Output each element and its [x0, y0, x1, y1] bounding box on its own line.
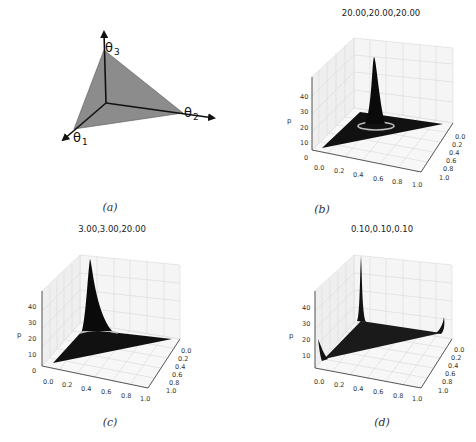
svg-text:0.4: 0.4 — [448, 362, 458, 370]
svg-text:30: 30 — [300, 108, 308, 116]
svg-text:20: 20 — [300, 124, 308, 132]
grid-panes — [312, 38, 453, 172]
svg-text:0.0: 0.0 — [181, 347, 191, 355]
svg-text:2: 2 — [193, 112, 199, 122]
svg-text:40: 40 — [28, 303, 36, 311]
svg-text:0: 0 — [304, 154, 308, 162]
svg-text:0.8: 0.8 — [393, 392, 403, 400]
svg-text:10: 10 — [302, 352, 310, 360]
svg-text:1: 1 — [82, 137, 88, 147]
svg-text:0.2: 0.2 — [451, 354, 461, 362]
svg-text:1.0: 1.0 — [140, 395, 150, 403]
svg-text:1.0: 1.0 — [438, 387, 448, 395]
svg-text:30: 30 — [302, 320, 310, 328]
svg-text:0.0: 0.0 — [454, 346, 464, 354]
svg-text:0.6: 0.6 — [373, 175, 383, 183]
y-ticks: 0.00.20.4 0.60.81.0 — [439, 133, 465, 182]
svg-text:1.0: 1.0 — [166, 387, 176, 395]
caption-b: (b) — [314, 203, 330, 216]
svg-text:0.4: 0.4 — [353, 171, 363, 179]
surface-plot-c: 4030 20100 p 0.00.20.4 0.60.81.0 0.00.20… — [0, 221, 238, 442]
svg-text:0: 0 — [32, 367, 36, 375]
plot-title-d: 0.10,0.10,0.10 — [351, 224, 413, 234]
svg-text:0.6: 0.6 — [172, 371, 182, 379]
svg-text:0.8: 0.8 — [169, 379, 179, 387]
svg-text:0.6: 0.6 — [373, 388, 383, 396]
surface-plot-d: 4030 2010 p 0.00.20.4 0.60.81.0 0.00.20.… — [238, 221, 476, 442]
surface-plot-b: 4030 20100 p 0.00.20.4 0.60.81.0 0.00.20… — [238, 0, 476, 221]
svg-text:0.8: 0.8 — [121, 392, 131, 400]
z-axis-label: p — [287, 117, 292, 125]
svg-text:0.4: 0.4 — [353, 385, 363, 393]
panel-d: 0.10,0.10,0.10 40 — [238, 221, 476, 442]
theta2-label: θ 2 — [184, 105, 199, 122]
caption-a: (a) — [102, 201, 117, 214]
svg-text:20: 20 — [302, 336, 310, 344]
svg-text:10: 10 — [300, 139, 308, 147]
caption-d: (d) — [374, 416, 390, 429]
panel-a: θ 3 θ 2 θ 1 (a) — [0, 0, 238, 221]
svg-text:0.6: 0.6 — [101, 388, 111, 396]
svg-text:1.0: 1.0 — [439, 174, 449, 182]
svg-text:0.0: 0.0 — [314, 378, 324, 386]
svg-text:3: 3 — [114, 47, 120, 57]
svg-text:0.6: 0.6 — [445, 370, 455, 378]
theta1-label: θ 1 — [73, 130, 88, 147]
svg-text:0.4: 0.4 — [449, 149, 459, 157]
svg-text:40: 40 — [300, 93, 308, 101]
svg-text:θ: θ — [105, 40, 113, 55]
svg-text:θ: θ — [184, 105, 192, 120]
svg-text:0.2: 0.2 — [452, 141, 462, 149]
svg-text:0.8: 0.8 — [443, 165, 453, 173]
theta3-label: θ 3 — [105, 40, 120, 57]
svg-text:θ: θ — [73, 130, 81, 145]
panel-c: 3.00,3.00,20.00 4030 — [0, 221, 238, 442]
svg-text:0.2: 0.2 — [62, 381, 72, 389]
svg-text:0.0: 0.0 — [43, 378, 53, 386]
svg-text:40: 40 — [302, 304, 310, 312]
svg-text:0.2: 0.2 — [334, 167, 344, 175]
plot-title-c: 3.00,3.00,20.00 — [78, 224, 146, 234]
panel-b: 20.00,20.00,20.00 — [238, 0, 476, 221]
simplex-diagram: θ 3 θ 2 θ 1 — [0, 0, 238, 221]
svg-text:0.0: 0.0 — [314, 164, 324, 172]
z-ticks: 4030 20100 — [300, 93, 308, 162]
plot-title-b: 20.00,20.00,20.00 — [342, 8, 420, 18]
caption-c: (c) — [103, 416, 118, 429]
svg-text:0.4: 0.4 — [175, 363, 185, 371]
svg-text:10: 10 — [28, 351, 36, 359]
svg-text:0.8: 0.8 — [392, 178, 402, 186]
svg-text:0.0: 0.0 — [455, 133, 465, 141]
svg-text:30: 30 — [28, 319, 36, 327]
svg-text:0.2: 0.2 — [334, 381, 344, 389]
svg-text:0.4: 0.4 — [81, 385, 91, 393]
svg-text:20: 20 — [28, 335, 36, 343]
svg-text:0.2: 0.2 — [178, 355, 188, 363]
z-axis-label: p — [17, 331, 22, 339]
z-axis-label: p — [289, 332, 294, 340]
svg-text:1.0: 1.0 — [412, 181, 422, 189]
svg-text:1.0: 1.0 — [412, 395, 422, 403]
svg-text:0.6: 0.6 — [446, 157, 456, 165]
svg-text:0.8: 0.8 — [442, 378, 452, 386]
